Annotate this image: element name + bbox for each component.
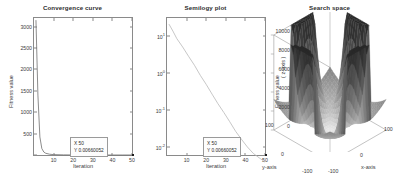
ytick-convergence-2000: 2000 — [20, 66, 32, 72]
datatip-x-value: X 50 — [74, 140, 104, 147]
xtick-semilogy-40: 40 — [243, 157, 249, 163]
chart-title-surface: Search space — [258, 4, 401, 11]
ytick-surface-0: 0 — [281, 151, 284, 157]
ytick-exponent: -2 — [161, 143, 165, 148]
xtick-surface-minus100: -100 — [328, 168, 338, 174]
xtick-surface-100: 100 — [384, 126, 393, 132]
ztick-8000: 8000 — [278, 47, 290, 53]
ytick-convergence-3000: 3000 — [20, 24, 32, 30]
xtick-semilogy-30: 30 — [223, 157, 229, 163]
ytick-exponent: 0 — [163, 69, 165, 74]
xtick-semilogy-10: 10 — [184, 157, 190, 163]
xaxis-label-surface: x-axis — [361, 164, 376, 170]
ytick-convergence-1500: 1500 — [20, 88, 32, 94]
ztick-4000: 4000 — [278, 85, 290, 91]
ytick-semilogy-1e-1: 10-1 — [156, 106, 165, 114]
datatip-semilogy[interactable]: X 50 Y 0.00660052 — [203, 137, 241, 157]
semilogy-series-plot — [167, 18, 265, 155]
panel-convergence-curve: Convergence curve 500 1000 1500 2000 250… — [0, 0, 145, 185]
xtick-convergence-20: 20 — [70, 157, 76, 163]
xtick-convergence-30: 30 — [90, 157, 96, 163]
ytick-exponent: -1 — [161, 106, 165, 111]
yaxis-label-convergence: Fitness value — [8, 75, 14, 108]
ytick-surface-100: 100 — [265, 122, 274, 128]
ztick-2000: 2000 — [278, 104, 290, 110]
ytick-convergence-2500: 2500 — [20, 45, 32, 51]
ytick-semilogy-1e0: 100 — [157, 69, 165, 77]
ztick-10000: 10000 — [276, 28, 290, 34]
axes-semilogy: 101 100 10-1 10-2 10 20 30 40 50 Iterati… — [166, 17, 266, 156]
xtick-semilogy-20: 20 — [203, 157, 209, 163]
chart-title-convergence: Convergence curve — [0, 4, 145, 11]
xaxis-label-convergence: Iteration — [34, 163, 132, 169]
surface-stage: 10000 8000 6000 4000 2000 0 — [258, 12, 401, 152]
axes-convergence: 500 1000 1500 2000 2500 3000 10 20 — [33, 17, 133, 156]
datatip-x-value: X 50 — [207, 140, 237, 147]
ytick-exponent: 1 — [163, 32, 165, 37]
ytick-surface-minus100: -100 — [302, 168, 312, 174]
datatip-y-value: Y 0.00660052 — [207, 147, 237, 154]
datatip-y-value: Y 0.00660052 — [74, 147, 104, 154]
ytick-convergence-500: 500 — [23, 131, 32, 137]
chart-title-semilogy: Semilogy plot — [133, 4, 278, 11]
zaxis-label-surface: ( z-axis ) — [280, 57, 286, 78]
ytick-semilogy-1e1: 101 — [157, 32, 165, 40]
matlab-figure-window: Convergence curve 500 1000 1500 2000 250… — [0, 0, 401, 185]
convergence-series-plot — [34, 18, 132, 155]
xtick-convergence-40: 40 — [110, 157, 116, 163]
xtick-convergence-10: 10 — [51, 157, 57, 163]
datatip-convergence[interactable]: X 50 Y 0.00660052 — [70, 137, 108, 157]
panel-search-space: Search space 10000 8000 6000 4000 2000 0… — [258, 0, 401, 185]
panel-semilogy-plot: Semilogy plot 101 100 10-1 10-2 10 20 30… — [133, 0, 278, 185]
ytick-semilogy-1e-2: 10-2 — [156, 143, 165, 151]
yaxis-label-surface: y-axis — [262, 164, 277, 170]
ytick-convergence-1000: 1000 — [20, 109, 32, 115]
ztick-0: 0 — [287, 123, 290, 129]
xtick-surface-0: 0 — [360, 152, 363, 158]
xaxis-label-semilogy: Iteration — [167, 163, 265, 169]
